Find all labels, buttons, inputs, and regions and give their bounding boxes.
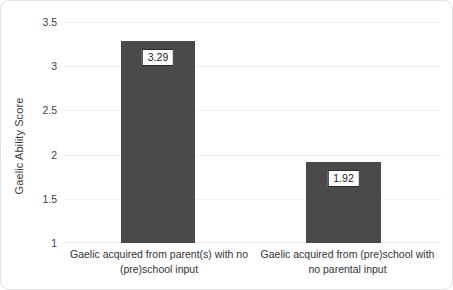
- x-axis-category-labels: Gaelic acquired from parent(s) with no (…: [64, 247, 441, 287]
- y-tick-label: 3: [17, 60, 57, 72]
- bar-value-label: 1.92: [327, 170, 359, 187]
- category-label: Gaelic acquired from (pre)school with no…: [254, 247, 441, 277]
- y-tick-label: 2: [17, 149, 57, 161]
- bar-chart-card: Gaelic Ability Score 3.5 3 2.5 2 1.5 1 3…: [0, 0, 453, 290]
- y-tick-label: 1.5: [17, 193, 57, 205]
- plot-area: 3.29 1.92: [64, 22, 441, 243]
- gridline: [64, 22, 441, 23]
- y-tick-label: 1: [17, 237, 57, 249]
- y-axis-title: Gaelic Ability Score: [9, 1, 29, 290]
- bar: [121, 41, 195, 243]
- y-tick-label: 3.5: [17, 16, 57, 28]
- category-label: Gaelic acquired from parent(s) with no (…: [64, 247, 254, 277]
- y-tick-label: 2.5: [17, 104, 57, 116]
- bar-value-label: 3.29: [142, 49, 174, 66]
- y-axis-title-text: Gaelic Ability Score: [13, 98, 25, 195]
